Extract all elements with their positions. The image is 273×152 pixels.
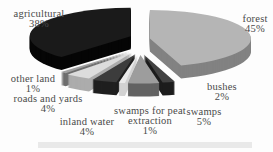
bottom-shadow-band [38,142,252,148]
pie-slice-forest [150,10,251,79]
slice-label-bushes: bushes 2% [200,82,244,102]
slice-label-swamps: swamps 5% [182,107,226,127]
chart-canvas: agricultural 38% forest 45% other land 1… [0,0,273,152]
slice-value: 38% [0,19,78,29]
slice-value: 2% [200,92,244,102]
slice-label-forest: forest 45% [238,14,272,34]
slice-label-agricultural: agricultural 38% [0,9,78,29]
slice-value: 4% [4,104,92,114]
slice-name: swamps for peat extraction [111,106,189,126]
slice-value: 45% [238,24,272,34]
slice-value: 1% [111,126,189,136]
slice-label-other-land: other land 1% [4,74,62,94]
slice-value: 5% [182,117,226,127]
slice-label-roads-and-yards: roads and yards 4% [4,94,92,114]
slice-label-swamps-for-peat-extraction: swamps for peat extraction 1% [111,106,189,136]
